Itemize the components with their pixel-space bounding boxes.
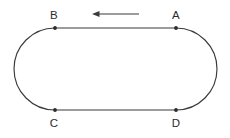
vertex-label-c: C [50,117,59,129]
vertex-dot-d [174,108,178,112]
direction-arrow-head-icon [92,11,100,17]
diagram-root: Stadium-shaped closed track with labelle… [0,0,230,138]
track-diagram-svg: Stadium-shaped closed track with labelle… [0,0,230,138]
vertex-label-d: D [172,117,181,129]
vertex-dot-b [53,26,57,30]
vertex-label-b: B [50,9,58,21]
vertex-dot-c [53,108,57,112]
stadium-track-outline [14,28,217,110]
vertex-label-a: A [172,9,180,21]
vertex-dot-a [174,26,178,30]
